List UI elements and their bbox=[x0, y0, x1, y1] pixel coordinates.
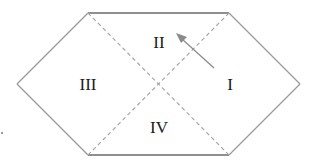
left-upper-boundary bbox=[17, 13, 88, 84]
arrow-line bbox=[182, 39, 214, 68]
region-label-II: II bbox=[153, 33, 165, 52]
region-label-III: III bbox=[80, 75, 97, 94]
region-label-IV: IV bbox=[150, 118, 169, 137]
right-lower-boundary bbox=[229, 84, 300, 155]
penrose-diagram: I II III IV bbox=[0, 0, 315, 165]
region-label-I: I bbox=[227, 75, 233, 94]
left-lower-boundary bbox=[17, 84, 88, 155]
right-upper-boundary bbox=[229, 13, 300, 84]
stray-dot bbox=[1, 132, 3, 134]
